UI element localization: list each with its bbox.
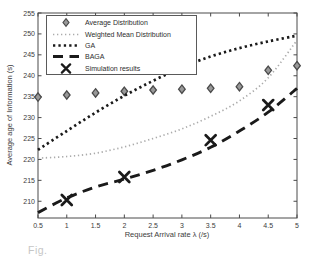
y-tick-label: 230 — [23, 114, 35, 121]
x-tick-label: 1 — [65, 222, 69, 229]
legend-label-simulation-results: Simulation results — [85, 65, 140, 72]
x-tick-label: 5 — [295, 222, 299, 229]
y-tick-label: 220 — [23, 156, 35, 163]
diamond-marker — [63, 19, 69, 27]
legend-sample-ga — [51, 40, 81, 51]
legend-label-ga: GA — [85, 42, 95, 49]
diamond-marker — [179, 85, 186, 93]
x-axis-label: Request Arrival rate λ (/s) — [125, 230, 210, 239]
series-simulation-results-markers — [62, 100, 273, 205]
legend-row-baga: BAGA — [51, 51, 196, 62]
diamond-marker — [92, 89, 99, 97]
y-tick-label: 210 — [23, 198, 35, 205]
diamond-marker — [265, 66, 272, 74]
legend-row-weighted-mean-distribution: Weighted Mean Distribution — [51, 29, 196, 40]
chart-legend: Average DistributionWeighted Mean Distri… — [46, 15, 197, 75]
x-tick-label: 3.5 — [206, 222, 216, 229]
legend-sample-average-distribution — [51, 17, 81, 28]
x-tick-label: 0.5 — [33, 222, 43, 229]
legend-label-weighted-mean-distribution: Weighted Mean Distribution — [85, 31, 171, 38]
x-marker — [62, 64, 70, 72]
legend-row-simulation-results: Simulation results — [51, 63, 196, 74]
y-tick-label: 215 — [23, 177, 35, 184]
legend-sample-simulation-results — [51, 63, 81, 74]
legend-row-ga: GA — [51, 40, 196, 51]
y-tick-label: 235 — [23, 93, 35, 100]
legend-sample-weighted-mean-distribution — [51, 29, 81, 40]
diamond-marker — [236, 82, 243, 90]
y-tick-label: 225 — [23, 135, 35, 142]
x-tick-label: 4.5 — [263, 222, 273, 229]
x-tick-label: 2 — [122, 222, 126, 229]
x-tick-label: 3 — [180, 222, 184, 229]
x-marker — [263, 100, 273, 110]
y-axis-label: Average age of Information (s) — [5, 64, 14, 165]
x-marker — [119, 172, 129, 182]
legend-row-average-distribution: Average Distribution — [51, 17, 196, 28]
diamond-marker — [207, 84, 214, 92]
x-tick-label: 4 — [237, 222, 241, 229]
legend-label-baga: BAGA — [85, 53, 104, 60]
legend-label-average-distribution: Average Distribution — [85, 19, 148, 26]
x-tick-label: 1.5 — [91, 222, 101, 229]
x-marker — [206, 135, 216, 145]
diamond-marker — [35, 93, 42, 101]
x-tick-label: 2.5 — [148, 222, 158, 229]
y-tick-label: 255 — [23, 10, 35, 17]
y-tick-label: 240 — [23, 72, 35, 79]
y-tick-label: 245 — [23, 51, 35, 58]
x-marker — [62, 195, 72, 205]
figure-caption-fragment: Fig. — [28, 244, 48, 256]
legend-sample-baga — [51, 51, 81, 62]
figure-page: 0.511.522.533.544.5521021522022523023524… — [0, 0, 312, 256]
diamond-marker — [150, 86, 157, 94]
y-tick-label: 250 — [23, 30, 35, 37]
diamond-marker — [294, 62, 301, 70]
diamond-marker — [63, 91, 70, 99]
series-baga-line — [38, 88, 297, 212]
